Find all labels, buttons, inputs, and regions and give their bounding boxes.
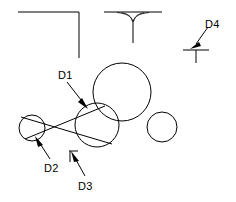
diagram-svg	[0, 0, 236, 202]
small-left-circle	[19, 115, 45, 141]
top-center-tee-profile	[104, 12, 162, 43]
large-circle	[93, 63, 151, 121]
leader-d1	[67, 82, 88, 109]
circle-group	[19, 63, 177, 147]
top-left-corner-profile	[18, 12, 79, 58]
internal-tangent-lower-line	[25, 106, 105, 139]
leader-d4-arrowhead	[190, 42, 201, 49]
leader-d3-arrowhead	[71, 151, 79, 162]
leader-d3	[71, 151, 85, 176]
bottom-right-tee-profile	[183, 50, 209, 63]
leader-d4	[190, 27, 208, 49]
dimension-label-d4: D4	[205, 19, 219, 30]
dimension-label-d2: D2	[44, 163, 58, 174]
dimension-label-d3: D3	[78, 181, 92, 192]
leader-d1-arrowhead	[78, 98, 88, 109]
dimension-label-d1: D1	[58, 70, 72, 81]
drawing-canvas: D1 D2 D3 D4	[0, 0, 236, 202]
leader-d2	[35, 136, 50, 159]
internal-tangent-upper-line	[21, 117, 112, 144]
tangent-line-group	[21, 106, 112, 144]
small-right-circle	[147, 112, 177, 142]
leader-d2-arrowhead	[35, 136, 43, 147]
